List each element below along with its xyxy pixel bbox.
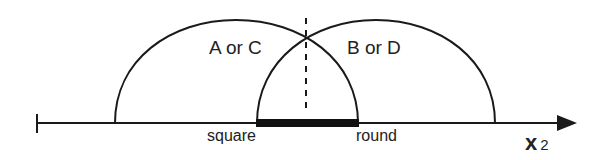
arc-b-or-d [257,20,495,123]
axis-label-main: x [525,130,537,155]
axis-label-subscript: 2 [540,136,548,153]
diagram-graphics [0,0,591,160]
axis-arrowhead [557,115,577,131]
endpoint-label-round: round [356,127,397,145]
arc-a-or-c [115,20,358,123]
overlap-bar [256,119,359,127]
diagram: A or C B or D square round x2 [0,0,591,160]
region-label-b-or-d: B or D [347,37,401,59]
region-label-a-or-c: A or C [209,37,262,59]
axis-label: x2 [525,130,549,156]
endpoint-label-square: square [207,127,256,145]
